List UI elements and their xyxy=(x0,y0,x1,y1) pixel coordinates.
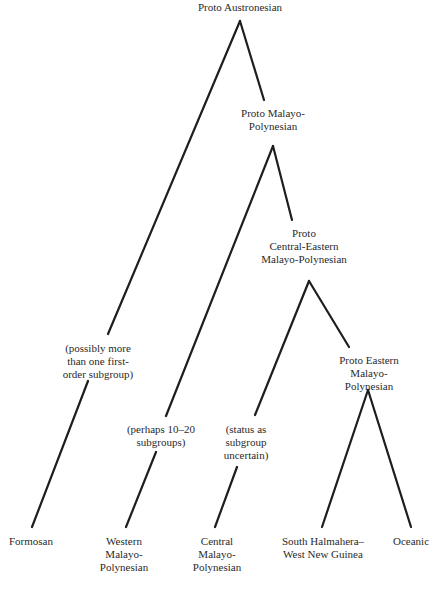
edge-pcemp-cmp-lower xyxy=(215,467,237,527)
edge-pan-formosan-upper xyxy=(108,21,240,334)
edge-pemp-shwng xyxy=(322,390,368,527)
annotation-central-mp: (status as subgroup uncertain) xyxy=(224,423,269,462)
node-proto-malayo-polynesian: Proto Malayo- Polynesian xyxy=(241,107,305,133)
leaf-oceanic: Oceanic xyxy=(393,535,429,548)
edge-pcemp-cmp-upper xyxy=(255,281,309,415)
edge-pmp-wmp-lower xyxy=(126,452,156,527)
node-proto-austronesian: Proto Austronesian xyxy=(198,1,282,14)
node-proto-eastern-mp: Proto Eastern Malayo-Polynesian xyxy=(335,354,404,393)
edge-pemp-oceanic xyxy=(368,390,411,527)
annotation-western-mp: (perhaps 10–20 subgroups) xyxy=(127,423,195,449)
leaf-western-malayo-polynesian: Western Malayo- Polynesian xyxy=(100,535,148,574)
node-proto-central-eastern-mp: Proto Central-Eastern Malayo-Polynesian xyxy=(261,227,347,266)
annotation-formosan: (possibly more than one first- order sub… xyxy=(63,342,134,381)
edge-pmp-wmp-upper xyxy=(166,146,273,416)
edge-pmp-pcemp xyxy=(273,146,292,220)
edge-pan-formosan-lower xyxy=(32,381,88,527)
leaf-south-halmahera-west-new-guinea: South Halmahera– West New Guinea xyxy=(282,535,364,561)
leaf-central-malayo-polynesian: Central Malayo- Polynesian xyxy=(193,535,241,574)
leaf-formosan: Formosan xyxy=(9,535,53,548)
tree-edges xyxy=(0,0,438,591)
edge-pan-pmp xyxy=(240,21,264,100)
edge-pcemp-pemp xyxy=(309,281,349,347)
